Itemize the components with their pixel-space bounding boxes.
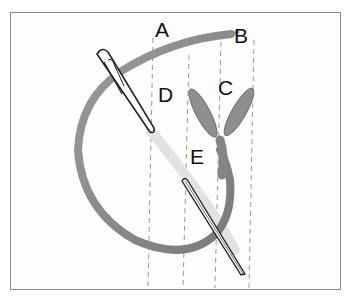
- petal-left: [184, 86, 222, 140]
- label-e: E: [190, 146, 204, 167]
- guide-line-b: [249, 40, 254, 288]
- label-d: D: [158, 84, 173, 105]
- stitch-illustration: [0, 0, 348, 300]
- label-c: C: [218, 77, 233, 98]
- guide-line-a: [148, 38, 153, 288]
- petal-stem: [220, 140, 223, 175]
- label-b: B: [234, 25, 248, 46]
- label-a: A: [155, 19, 169, 40]
- needle-point: [182, 179, 245, 276]
